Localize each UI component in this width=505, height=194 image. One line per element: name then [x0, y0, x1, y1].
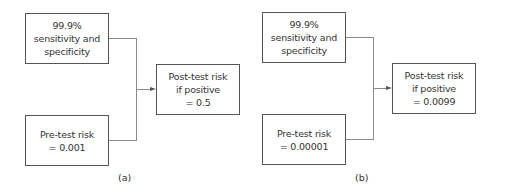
connector-arrow-line-a: [136, 89, 150, 90]
test-accuracy-box-b: 99.9% sensitivity and specificity: [262, 12, 346, 63]
box-line: = 0.5: [185, 96, 210, 109]
connector-top-b: [346, 37, 374, 38]
box-line: if positive: [412, 82, 456, 95]
posttest-risk-box-b: Post-test risk if positive = 0.0099: [392, 63, 476, 114]
box-line: = 0.00001: [280, 140, 328, 153]
posttest-risk-box-a: Post-test risk if positive = 0.5: [156, 64, 240, 115]
box-line: sensitivity and: [271, 31, 337, 44]
box-line: sensitivity and: [34, 32, 100, 45]
panel-label-b: (b): [355, 172, 368, 183]
pretest-risk-box-b: Pre-test risk = 0.00001: [262, 114, 346, 165]
box-line: = 0.001: [49, 141, 86, 154]
test-accuracy-box-a: 99.9% sensitivity and specificity: [25, 13, 109, 64]
pretest-risk-box-a: Pre-test risk = 0.001: [25, 115, 109, 166]
connector-arrow-line-b: [373, 88, 386, 89]
box-line: Post-test risk: [405, 69, 464, 82]
box-line: specificity: [281, 44, 327, 57]
box-line: 99.9%: [52, 19, 81, 32]
arrow-right-icon: [150, 87, 156, 91]
box-line: Pre-test risk: [40, 128, 94, 141]
box-line: = 0.0099: [413, 95, 456, 108]
connector-bottom-b: [346, 139, 374, 140]
box-line: Pre-test risk: [277, 127, 331, 140]
connector-bottom-a: [109, 140, 137, 141]
box-line: 99.9%: [289, 18, 318, 31]
panel-label-a: (a): [118, 172, 131, 183]
box-line: if positive: [176, 83, 220, 96]
arrow-right-icon: [386, 86, 392, 90]
box-line: specificity: [44, 45, 90, 58]
connector-top-a: [109, 38, 137, 39]
box-line: Post-test risk: [169, 70, 228, 83]
